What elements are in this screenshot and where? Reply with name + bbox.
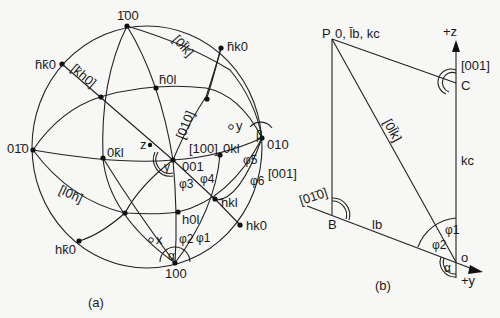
label-plus-z: +z [443,24,457,39]
label-bar100: 1̄00 [117,8,139,23]
label-o: o [461,250,468,265]
label-gamma: γ [164,160,170,174]
label-beta: β [256,128,263,142]
label-alpha-b: α [444,261,451,275]
pole-0kbar-l [100,155,105,160]
label-phi5: φ5 [243,153,258,167]
z-axis-arrowhead [452,40,460,52]
segment-PC [332,39,456,83]
pole-001 [170,157,175,162]
label-y: y [236,118,243,133]
label-zone-001-b: [001] [461,58,490,73]
stereogram-a: 1̄00 h̄k̄0 h̄k0 h̄0l 01̄0 0k̄l z y 001 0… [7,8,297,310]
pole-h-kbar0 [76,238,81,243]
pole-bar100 [124,23,129,28]
label-zone-l0hbar: [l0h̄] [57,182,86,206]
pole-0kl [217,152,222,157]
pole-node-upper-right [204,96,209,101]
pole-y-open [229,125,234,130]
label-P: P [322,26,331,41]
label-P-coords: 0, l̄b, kc [335,26,380,41]
label-phi2-b: φ2 [432,238,447,252]
label-z: z [140,137,147,152]
label-B: B [328,217,337,232]
caption-a: (a) [88,295,104,310]
pole-0bar10 [30,147,35,152]
label-x: x [156,232,163,247]
label-phi3: φ3 [179,177,194,191]
caption-b: (b) [375,278,391,293]
pole-x-open [149,238,154,243]
label-hbar-kbar0: h̄k̄0 [35,57,56,72]
pole-hbar0l [153,85,158,90]
label-phi2-a: φ2 [179,232,194,246]
label-hk0: hk0 [246,218,267,233]
pole-hbar-kbar0 [59,61,64,66]
label-zone-010: [010] [173,109,198,141]
segment-Po [332,39,456,262]
label-h0l: h0l [182,212,199,227]
pole-hk0 [237,222,242,227]
pole-node-upper-left [98,94,103,99]
label-phi4: φ4 [200,172,215,186]
y-axis [307,206,478,271]
label-0kl: 0kl [223,141,240,156]
stereographic-diagram: 1̄00 h̄k̄0 h̄k0 h̄0l 01̄0 0k̄l z y 001 0… [0,0,500,318]
label-plus-y: +y [461,273,476,288]
label-010: 010 [267,137,289,152]
label-zone-100: [100] [189,141,218,156]
label-zone-001: [001] [268,166,297,181]
pole-z [148,143,152,147]
label-lb: lb [372,217,382,232]
label-zone-0lbar-k-b: [0l̄k] [380,116,404,144]
label-100: 100 [165,266,187,281]
vector-diagram-b: P 0, l̄b, kc +z [001] C [0l̄k] kc [01̄0]… [297,24,490,293]
label-phi1-a: φ1 [196,231,211,245]
label-alpha-a: α [168,249,175,263]
label-zone-01bar0: [01̄0] [297,185,329,208]
label-hbar0l: h̄0l [159,72,176,87]
label-C: C [461,78,470,93]
label-0bar10: 01̄0 [7,141,29,156]
label-phi1-b: φ1 [445,223,460,237]
label-kc: kc [461,153,475,168]
pole-hkl [212,196,217,201]
label-hkl: hkl [221,195,238,210]
pole-node-lower-left [122,210,127,215]
label-0kbar-l: 0k̄l [107,145,124,160]
label-hbar-k0: h̄k0 [227,39,248,54]
pole-h0l [175,209,180,214]
label-zone-kbar-h0: [k̄h0] [68,61,99,91]
label-h-kbar0: hk̄0 [55,242,76,257]
label-phi6: φ6 [250,174,265,188]
pole-hbar-k0 [218,45,223,50]
